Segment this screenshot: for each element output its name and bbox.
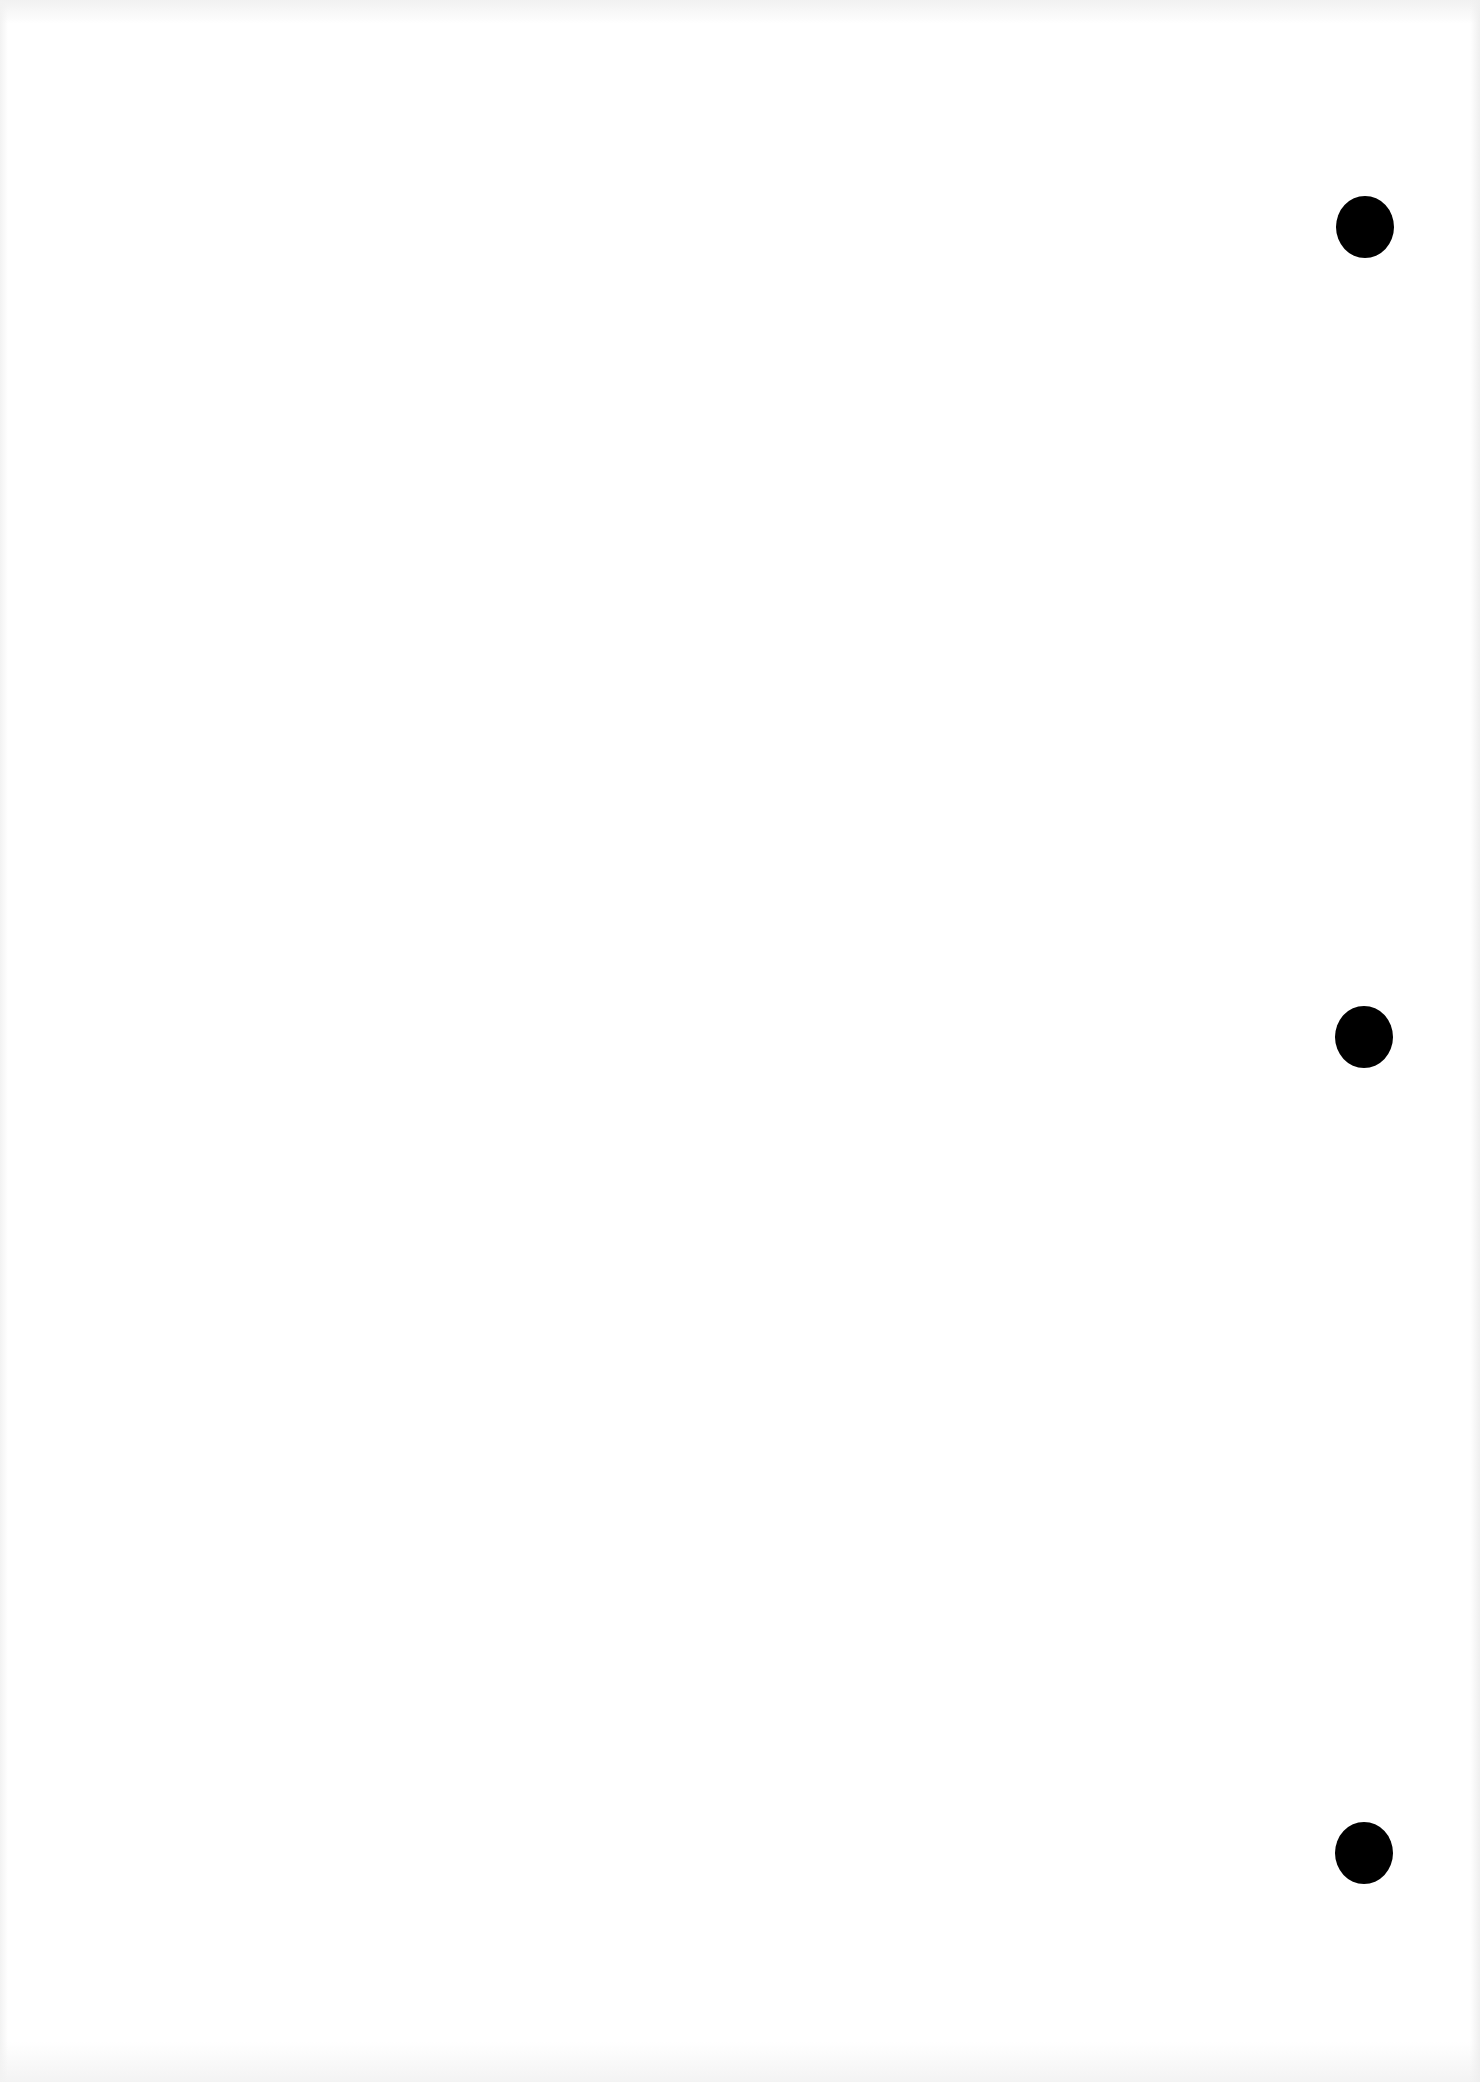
punch-hole-top xyxy=(1336,196,1394,258)
scan-edge-left xyxy=(0,0,8,2082)
punch-hole-bottom xyxy=(1335,1822,1393,1884)
scan-edge-right xyxy=(1470,0,1480,2082)
blank-page xyxy=(0,0,1480,2082)
scan-edge-bottom xyxy=(0,2042,1480,2082)
punch-hole-middle xyxy=(1335,1006,1393,1068)
scan-edge-top xyxy=(0,0,1480,24)
